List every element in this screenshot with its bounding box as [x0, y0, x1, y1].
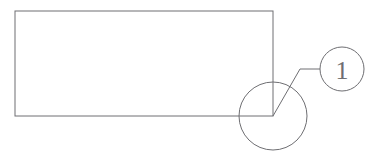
drawing-canvas: 1 — [0, 0, 376, 165]
balloon-number-label: 1 — [336, 56, 349, 85]
technical-drawing: 1 — [0, 0, 376, 165]
part-outline-rectangle — [15, 11, 273, 116]
leader-line — [273, 69, 320, 116]
